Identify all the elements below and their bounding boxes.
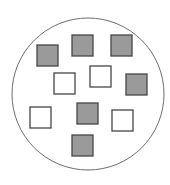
shaded-square: [72, 35, 93, 56]
shaded-square: [111, 35, 132, 56]
unshaded-square: [90, 66, 111, 87]
unshaded-square: [112, 110, 133, 131]
shaded-square: [37, 45, 58, 66]
diagram-canvas: [0, 0, 170, 185]
shaded-square: [77, 103, 98, 124]
unshaded-square: [30, 107, 51, 128]
shaded-square: [72, 135, 93, 156]
unshaded-square: [54, 73, 75, 94]
shaded-square: [126, 74, 147, 95]
